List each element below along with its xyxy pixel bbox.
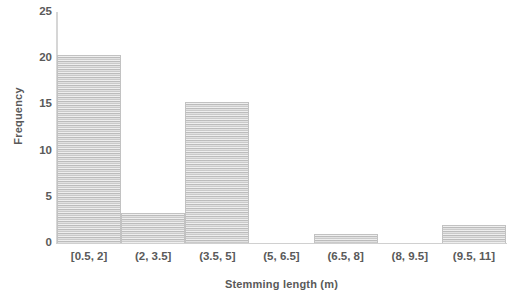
x-axis-title: Stemming length (m) [57, 278, 506, 290]
y-tick-label: 10 [26, 145, 52, 157]
y-tick-label: 20 [26, 52, 52, 64]
bar[interactable] [314, 234, 378, 243]
bar[interactable] [57, 55, 121, 243]
x-tick-label: (8, 9.5] [378, 250, 442, 262]
x-tick-label: [0.5, 2] [57, 250, 121, 262]
x-tick-label: (9.5, 11] [442, 250, 506, 262]
y-tick-label: 15 [26, 99, 52, 111]
bar-series [57, 12, 506, 243]
plot-area [57, 12, 506, 243]
bar-slot [378, 12, 442, 243]
bar-slot [121, 12, 185, 243]
bar-slot [185, 12, 249, 243]
x-tick-label: (2, 3.5] [121, 250, 185, 262]
x-axis-tick-labels: [0.5, 2](2, 3.5](3.5, 5](5, 6.5](6.5, 8]… [57, 250, 506, 262]
x-tick-label: (6.5, 8] [314, 250, 378, 262]
y-tick-label: 25 [26, 6, 52, 18]
bar-slot [57, 12, 121, 243]
bar[interactable] [442, 225, 506, 243]
y-tick-label: 5 [26, 191, 52, 203]
bar-slot [442, 12, 506, 243]
x-tick-label: (3.5, 5] [185, 250, 249, 262]
bar-slot [314, 12, 378, 243]
bar[interactable] [121, 213, 185, 243]
y-axis-tick-labels: 0510152025 [24, 0, 52, 308]
y-tick-label: 0 [26, 237, 52, 249]
bar-slot [249, 12, 313, 243]
histogram-chart: Frequency 0510152025 [0.5, 2](2, 3.5](3.… [0, 0, 513, 308]
x-tick-label: (5, 6.5] [249, 250, 313, 262]
bar[interactable] [185, 102, 249, 243]
y-axis-title: Frequency [12, 76, 24, 156]
